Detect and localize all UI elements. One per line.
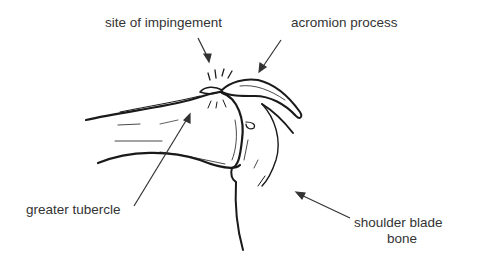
- label-acromion-process: acromion process: [291, 15, 398, 30]
- label-shoulder-blade: shoulder blade: [354, 215, 443, 230]
- label-greater-tubercle: greater tubercle: [26, 202, 121, 217]
- acromion: [222, 79, 301, 117]
- coracoid: [246, 122, 255, 129]
- arrow-shoulder-blade-bone: [296, 192, 305, 199]
- humerus-upper-edge: [86, 92, 222, 120]
- humerus-lower-edge: [98, 153, 240, 168]
- impingement-marks: [208, 69, 232, 80]
- arrow-site-of-impingement: [204, 54, 211, 62]
- label-bone: bone: [387, 231, 417, 246]
- label-site-of-impingement: site of impingement: [105, 15, 222, 30]
- shoulder-impingement-diagram: site of impingement acromion process gre…: [0, 0, 478, 265]
- scapula: [262, 104, 278, 186]
